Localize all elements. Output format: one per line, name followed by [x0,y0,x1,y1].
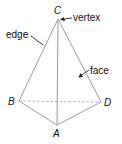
vertex-annotation: vertex [73,12,100,23]
edge-annotation: edge [6,29,29,40]
vertex-label-b: B [8,96,15,107]
tetrahedron-diagram: C B D A vertex edge face [0,0,122,144]
hidden-edge-bd [19,101,101,102]
vertex-arrow-icon [61,18,72,20]
edge-ba [19,101,57,125]
edge-cd [58,19,101,102]
edge-da [57,102,101,125]
edge-ca [57,19,58,125]
vertex-label-c: C [54,5,62,16]
face-annotation: face [90,65,109,76]
vertex-label-d: D [104,97,111,108]
vertex-label-a: A [52,128,60,139]
edge-leader-line [31,36,43,45]
